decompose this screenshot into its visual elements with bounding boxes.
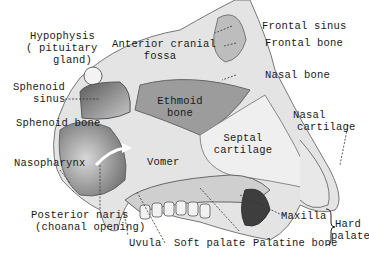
label-hypophysis-gland: gland): [53, 55, 92, 66]
label-sphenoid-sinus: sinus: [33, 94, 66, 105]
label-hypophysis-pituitary: ( pituitary: [26, 43, 98, 54]
label-posterior-naris: Posterior naris: [31, 210, 129, 221]
label-nasopharynx: Nasopharynx: [14, 158, 86, 169]
label-vomer: Vomer: [147, 157, 180, 168]
label-frontal-sinus: Frontal sinus: [262, 21, 347, 32]
label-sphenoid: Sphenoid: [13, 82, 65, 93]
label-nasal-bone: Nasal bone: [265, 70, 330, 81]
label-septal-cartilage: cartilage: [210, 145, 276, 156]
label-hypophysis: Hypophysis: [30, 31, 95, 42]
label-uvula: Uvula: [129, 238, 162, 249]
label-septal: Septal: [210, 133, 276, 144]
label-palatine-bone: Palatine bone: [253, 238, 338, 249]
label-anterior-fossa: fossa: [112, 51, 208, 62]
label-maxilla: Maxilla: [281, 211, 327, 222]
label-nasal: Nasal: [293, 110, 326, 121]
label-choanal-opening: (choanal opening): [35, 222, 146, 233]
label-frontal-bone: Frontal bone: [265, 38, 343, 49]
label-ethmoid: Ethmoid: [145, 96, 215, 107]
label-nasal-cartilage: cartilage: [297, 122, 356, 133]
nasal-anatomy-diagram: Hypophysis ( pituitary gland) Anterior c…: [0, 0, 369, 262]
label-hard: Hard: [335, 219, 361, 230]
label-anterior-cranial: Anterior cranial: [112, 39, 208, 50]
label-sphenoid-bone: Sphenoid bone: [16, 118, 101, 129]
label-ethmoid-bone: bone: [145, 108, 215, 119]
label-soft-palate: Soft palate: [174, 238, 246, 249]
